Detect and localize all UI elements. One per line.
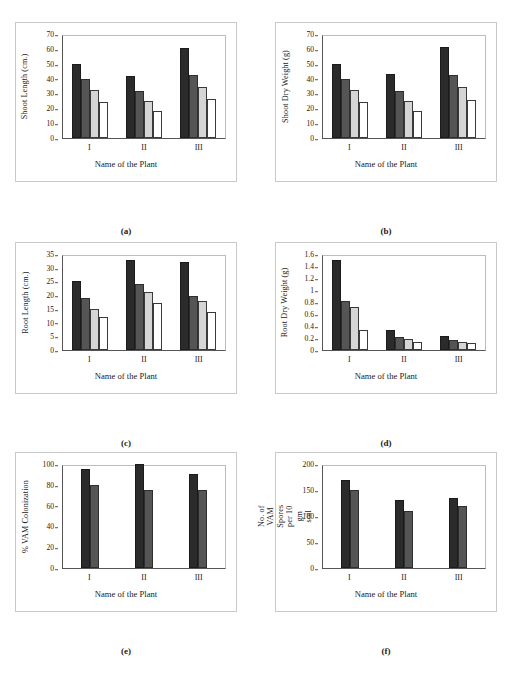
bar bbox=[72, 64, 81, 138]
y-tick-label: 0 bbox=[310, 565, 314, 573]
chart-panel-c: Root Length (cm.)05101520253035IIIIIINam… bbox=[15, 242, 237, 394]
y-tick-label: 200 bbox=[303, 461, 314, 469]
x-axis-ticks: IIIIII bbox=[322, 573, 486, 582]
bar bbox=[198, 87, 207, 138]
bar bbox=[449, 498, 458, 568]
x-tick-label: III bbox=[431, 573, 486, 582]
figure-sheet: Shoot Length (cm.)010203040506070IIIIIIN… bbox=[0, 0, 513, 688]
bar bbox=[72, 281, 81, 350]
bar-container bbox=[63, 466, 225, 568]
y-tick-label: 20 bbox=[306, 105, 314, 113]
plot-area bbox=[322, 35, 486, 139]
y-tick-label: 25 bbox=[46, 279, 54, 287]
bar-group bbox=[440, 36, 476, 138]
bar bbox=[189, 474, 198, 568]
y-tick-label: 35 bbox=[46, 251, 54, 259]
y-tick-label: 0.4 bbox=[305, 323, 315, 331]
y-tick-label: 0.2 bbox=[305, 335, 315, 343]
y-tick-label: 20 bbox=[46, 544, 54, 552]
bar bbox=[404, 101, 413, 138]
bar bbox=[395, 500, 404, 568]
y-tick-label: 30 bbox=[46, 91, 54, 99]
y-tick-label: 70 bbox=[46, 31, 54, 39]
y-tick-label: 20 bbox=[46, 292, 54, 300]
x-axis-label: Name of the Plant bbox=[276, 371, 496, 381]
chart-a: Shoot Length (cm.)010203040506070IIIIIIN… bbox=[16, 23, 236, 181]
x-axis-label: Name of the Plant bbox=[16, 371, 236, 381]
plot-area bbox=[62, 465, 226, 569]
figure-cell-f: No. of VAM Spores per 10 gm soil05010015… bbox=[260, 452, 512, 674]
y-tick-label: 40 bbox=[306, 76, 314, 84]
bar-group bbox=[72, 256, 108, 350]
bar-group bbox=[332, 256, 368, 350]
x-tick-label: I bbox=[62, 143, 117, 152]
x-axis-label: Name of the Plant bbox=[276, 589, 496, 599]
x-tick-label: II bbox=[117, 355, 172, 364]
y-axis-label-text: Root Dry Weight (g) bbox=[281, 267, 290, 337]
y-axis-label: Shoot Dry Weight (g) bbox=[278, 23, 292, 149]
y-tick-label: 60 bbox=[46, 46, 54, 54]
x-axis-ticks: IIIIII bbox=[62, 143, 226, 152]
bar bbox=[404, 339, 413, 350]
bar bbox=[341, 301, 350, 350]
bar bbox=[359, 102, 368, 138]
bar-group bbox=[135, 466, 153, 568]
x-tick-label: II bbox=[117, 573, 172, 582]
bar bbox=[386, 74, 395, 138]
bar bbox=[144, 292, 153, 350]
figure-cell-b: Shoot Dry Weight (g)010203040506070IIIII… bbox=[260, 22, 512, 242]
bar-group bbox=[386, 36, 422, 138]
y-axis-ticks: 050100150200 bbox=[292, 465, 318, 569]
bar bbox=[144, 101, 153, 138]
bar bbox=[144, 490, 153, 568]
chart-b: Shoot Dry Weight (g)010203040506070IIIII… bbox=[276, 23, 496, 181]
bar bbox=[198, 301, 207, 350]
bar bbox=[332, 260, 341, 350]
x-tick-label: II bbox=[117, 143, 172, 152]
bar bbox=[126, 260, 135, 351]
bar bbox=[449, 340, 458, 351]
chart-panel-b: Shoot Dry Weight (g)010203040506070IIIII… bbox=[275, 22, 497, 182]
bar bbox=[207, 312, 216, 350]
y-tick-label: 1 bbox=[310, 287, 314, 295]
bar-container bbox=[323, 36, 485, 138]
x-axis-ticks: IIIIII bbox=[62, 355, 226, 364]
y-axis-label: Shoot Length (cm.) bbox=[18, 23, 32, 149]
chart-panel-e: % VAM Colonization020406080100IIIIIIName… bbox=[15, 452, 237, 612]
bar-group bbox=[72, 36, 108, 138]
figure-cell-d: Root Dry Weight (g)00.20.40.60.811.21.41… bbox=[260, 242, 512, 452]
bar bbox=[395, 91, 404, 138]
y-tick-label: 80 bbox=[46, 482, 54, 490]
y-tick-label: 10 bbox=[306, 120, 314, 128]
x-tick-label: III bbox=[431, 355, 486, 364]
bar bbox=[341, 480, 350, 568]
bar-group bbox=[386, 256, 422, 350]
y-tick-label: 15 bbox=[46, 306, 54, 314]
figure-cell-e: % VAM Colonization020406080100IIIIIIName… bbox=[0, 452, 252, 674]
y-tick-label: 100 bbox=[43, 461, 54, 469]
bar-group bbox=[440, 256, 476, 350]
y-tick-label: 0.8 bbox=[305, 299, 315, 307]
chart-panel-d: Root Dry Weight (g)00.20.40.60.811.21.41… bbox=[275, 242, 497, 394]
bar bbox=[458, 342, 467, 350]
x-axis-ticks: IIIIII bbox=[322, 143, 486, 152]
x-tick-label: I bbox=[62, 355, 117, 364]
y-axis-label-text: % VAM Colonization bbox=[21, 480, 30, 553]
bar bbox=[467, 343, 476, 350]
bar bbox=[413, 342, 422, 350]
bar-container bbox=[323, 256, 485, 350]
chart-panel-a: Shoot Length (cm.)010203040506070IIIIIIN… bbox=[15, 22, 237, 182]
figure-cell-a: Shoot Length (cm.)010203040506070IIIIIIN… bbox=[0, 22, 252, 242]
bar-group bbox=[81, 466, 99, 568]
bar-group bbox=[189, 466, 207, 568]
bar bbox=[449, 75, 458, 138]
y-axis-ticks: 00.20.40.60.811.21.41.6 bbox=[292, 255, 318, 351]
y-tick-label: 70 bbox=[306, 31, 314, 39]
y-tick-label: 50 bbox=[306, 539, 314, 547]
bar bbox=[90, 485, 99, 568]
y-tick-label: 0 bbox=[50, 347, 54, 355]
bar-group bbox=[449, 466, 467, 568]
bar bbox=[135, 91, 144, 138]
bar bbox=[207, 99, 216, 138]
bar bbox=[458, 87, 467, 138]
